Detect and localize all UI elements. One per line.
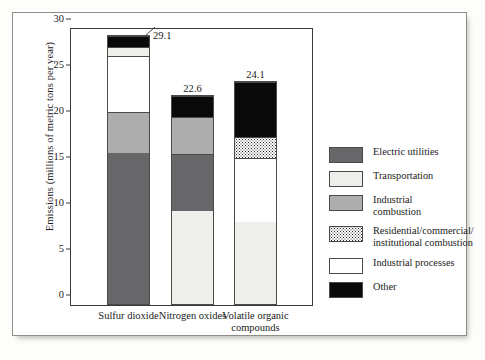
- legend-swatch: [329, 147, 363, 163]
- y-tick-0: 0: [59, 289, 71, 300]
- bar-segment[interactable]: [235, 82, 276, 136]
- bar-segment[interactable]: [172, 211, 213, 304]
- legend-label-line: Industrial combustion: [373, 194, 461, 218]
- bar-total-label: 29.1: [153, 30, 171, 41]
- y-tick-25: 25: [54, 59, 72, 70]
- y-tick-5: 5: [59, 243, 71, 254]
- legend-label-line: Industrial processes: [373, 257, 455, 269]
- bar-segment[interactable]: [108, 56, 149, 112]
- x-axis-label-line: Sulfur dioxide: [98, 310, 158, 322]
- bar-segment[interactable]: [235, 158, 276, 222]
- x-axis-label-line: Volatile organic: [222, 310, 288, 322]
- y-tick-10: 10: [54, 197, 72, 208]
- legend-label-line: Residential/commercial/: [373, 225, 474, 237]
- legend-label: Other: [373, 281, 396, 293]
- legend-swatch: [329, 226, 363, 242]
- bar-segment[interactable]: [108, 36, 149, 47]
- bar-segment[interactable]: [108, 47, 149, 55]
- y-tick-30: 30: [54, 13, 72, 24]
- legend-label: Industrial combustion: [373, 194, 461, 218]
- legend-swatch: [329, 282, 363, 298]
- legend-label: Residential/commercial/institutional com…: [373, 225, 474, 249]
- y-axis-label: Emissions (millions of metric tons per y…: [44, 17, 55, 257]
- legend-label: Electric utilities: [373, 146, 438, 158]
- bar-segment[interactable]: [108, 153, 149, 304]
- x-axis-label-line: compounds: [222, 322, 288, 334]
- legend-item[interactable]: Residential/commercial/institutional com…: [329, 225, 461, 249]
- bar-segment[interactable]: [172, 96, 213, 117]
- bar-segment[interactable]: [108, 112, 149, 153]
- bar-segment[interactable]: [235, 137, 276, 158]
- legend-label: Industrial processes: [373, 257, 455, 269]
- legend-label-line: institutional combustion: [373, 237, 474, 249]
- x-axis-label: Volatile organiccompounds: [222, 310, 288, 334]
- bar-stack[interactable]: [107, 35, 150, 305]
- y-tick-20: 20: [54, 105, 72, 116]
- plot-area: 051015202530 29.1Sulfur dioxide22.6Nitro…: [70, 28, 313, 306]
- legend-item[interactable]: Industrial processes: [329, 257, 461, 274]
- x-axis-label-line: Nitrogen oxides: [159, 310, 226, 322]
- bar-segment[interactable]: [235, 222, 276, 304]
- legend-item[interactable]: Other: [329, 281, 461, 298]
- legend-swatch: [329, 258, 363, 274]
- legend-swatch: [329, 171, 363, 187]
- legend-label-line: Other: [373, 281, 396, 293]
- legend-label-line: Transportation: [373, 170, 433, 182]
- bar-stack[interactable]: [234, 81, 277, 305]
- y-tick-15: 15: [54, 151, 72, 162]
- figure-paper: Emissions (millions of metric tons per y…: [12, 12, 467, 336]
- x-axis-label: Sulfur dioxide: [98, 310, 158, 322]
- bar-segment[interactable]: [172, 154, 213, 211]
- bar-stack[interactable]: [171, 95, 214, 305]
- chart-legend: Electric utilitiesTransportationIndustri…: [329, 146, 461, 305]
- legend-label-line: Electric utilities: [373, 146, 438, 158]
- figure-root: Emissions (millions of metric tons per y…: [0, 0, 485, 360]
- bar-total-label: 24.1: [246, 69, 264, 80]
- legend-item[interactable]: Electric utilities: [329, 146, 461, 163]
- x-axis-label: Nitrogen oxides: [159, 310, 226, 322]
- legend-item[interactable]: Transportation: [329, 170, 461, 187]
- bar-total-label: 22.6: [183, 83, 201, 94]
- legend-swatch: [329, 195, 363, 211]
- legend-label: Transportation: [373, 170, 433, 182]
- bar-segment[interactable]: [172, 117, 213, 154]
- legend-item[interactable]: Industrial combustion: [329, 194, 461, 218]
